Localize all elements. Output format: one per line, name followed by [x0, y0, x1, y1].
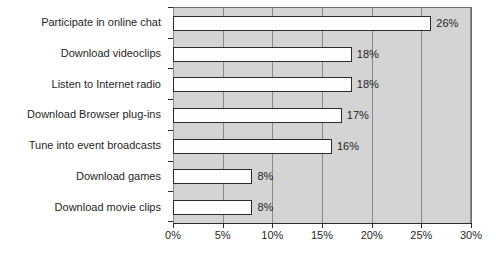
bar[interactable]	[173, 200, 252, 215]
bar[interactable]	[173, 108, 342, 123]
bar[interactable]	[173, 139, 332, 154]
bar-chart: Participate in online chat Download vide…	[0, 0, 500, 259]
x-axis-tick	[471, 223, 472, 228]
x-axis-tick-label: 0%	[165, 230, 181, 241]
category-axis-labels: Participate in online chat Download vide…	[0, 7, 168, 222]
bar-row: 26%	[173, 8, 471, 39]
bar-series: 26% 18% 18% 17% 16% 8%	[173, 8, 471, 223]
bar[interactable]	[173, 77, 352, 92]
category-label: Download Browser plug-ins	[0, 99, 168, 130]
bar-row: 18%	[173, 69, 471, 100]
bar[interactable]	[173, 16, 431, 31]
bar-row: 16%	[173, 131, 471, 162]
bar-value-label: 17%	[347, 110, 369, 121]
bar-value-label: 8%	[257, 202, 273, 213]
category-label: Download games	[0, 161, 168, 192]
bar-value-label: 16%	[337, 141, 359, 152]
x-axis-tick	[421, 223, 422, 228]
category-label: Listen to Internet radio	[0, 68, 168, 99]
bar-value-label: 26%	[436, 18, 458, 29]
bar-row: 18%	[173, 39, 471, 70]
bar[interactable]	[173, 169, 252, 184]
bar-row: 8%	[173, 192, 471, 223]
x-axis-tick-label: 25%	[410, 230, 432, 241]
bar-row: 17%	[173, 100, 471, 131]
bar-row: 8%	[173, 162, 471, 193]
x-axis-tick-label: 15%	[311, 230, 333, 241]
bar-value-label: 18%	[357, 49, 379, 60]
x-axis-tick	[322, 223, 323, 228]
x-axis-tick-label: 5%	[215, 230, 231, 241]
bar-value-label: 18%	[357, 79, 379, 90]
x-axis-tick	[223, 223, 224, 228]
x-axis-tick-label: 10%	[261, 230, 283, 241]
category-label: Download videoclips	[0, 38, 168, 69]
plot-area: 26% 18% 18% 17% 16% 8%	[173, 7, 472, 224]
bar[interactable]	[173, 47, 352, 62]
category-label: Download movie clips	[0, 191, 168, 222]
x-axis-tick-label: 20%	[361, 230, 383, 241]
category-label: Tune into event broadcasts	[0, 130, 168, 161]
category-label: Participate in online chat	[0, 7, 168, 38]
x-axis-tick	[173, 223, 174, 228]
x-axis-tick	[372, 223, 373, 228]
bar-value-label: 8%	[257, 171, 273, 182]
x-axis-tick	[272, 223, 273, 228]
x-axis-tick-label: 30%	[460, 230, 482, 241]
